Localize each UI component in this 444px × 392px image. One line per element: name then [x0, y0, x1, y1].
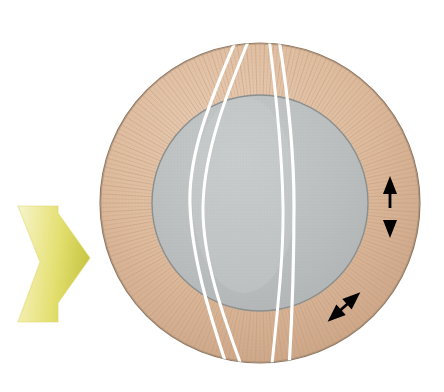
figure-svg: Circular cross-section with annulus, inn…	[0, 0, 444, 392]
load-direction-arrow	[18, 206, 90, 322]
inner-disc-group	[152, 95, 368, 311]
load-arrow-body	[18, 206, 90, 322]
diagram-canvas: Circular cross-section with annulus, inn…	[0, 0, 444, 392]
